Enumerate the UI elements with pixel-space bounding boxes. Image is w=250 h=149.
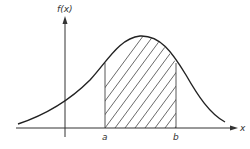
density-curve xyxy=(18,36,225,124)
y-axis-label: f(x) xyxy=(57,4,73,14)
upper-bound-label: b xyxy=(173,132,179,142)
area-under-curve-diagram: f(x) x a b xyxy=(0,0,250,149)
lower-bound-label: a xyxy=(102,132,108,142)
y-axis-arrow-icon xyxy=(63,16,68,24)
x-axis-arrow-icon xyxy=(230,126,238,131)
hatched-area xyxy=(75,20,250,128)
x-axis-label: x xyxy=(239,123,246,133)
